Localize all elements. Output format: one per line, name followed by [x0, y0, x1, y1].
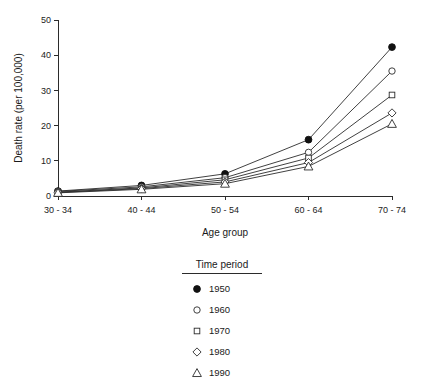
legend-item-1960[interactable]: 1960	[194, 304, 230, 315]
x-axis-tick-label: 70 - 74	[378, 205, 406, 215]
data-point-1960-70-74	[389, 68, 395, 74]
series-line-1950	[58, 47, 392, 191]
y-axis-tick-label: 10	[41, 156, 51, 166]
data-point-1990-70-74	[388, 119, 397, 127]
y-axis-tick-label: 0	[46, 191, 51, 201]
x-axis-tick-label: 40 - 44	[127, 205, 155, 215]
legend-label-1990: 1990	[209, 367, 230, 378]
legend-label-1980: 1980	[209, 346, 230, 357]
x-axis-tick-label: 60 - 64	[294, 205, 322, 215]
chart-legend: Time period19501960197019801990	[182, 259, 262, 378]
series-1950	[55, 44, 396, 195]
y-axis-tick-label: 30	[41, 86, 51, 96]
data-point-1970-70-74	[389, 92, 395, 98]
legend-title: Time period	[196, 259, 248, 270]
data-point-1950-70-74	[389, 44, 396, 51]
x-axis-title: Age group	[202, 227, 249, 238]
data-point-1950-60-64	[305, 136, 312, 143]
legend-label-1960: 1960	[209, 304, 230, 315]
x-axis-tick-label: 30 - 34	[44, 205, 72, 215]
legend-marker-open-square	[194, 328, 200, 334]
y-axis-tick-label: 50	[41, 15, 51, 25]
legend-marker-open-diamond	[193, 348, 201, 356]
legend-item-1990[interactable]: 1990	[193, 367, 231, 378]
legend-item-1980[interactable]: 1980	[193, 346, 230, 357]
legend-item-1970[interactable]: 1970	[194, 325, 230, 336]
legend-label-1970: 1970	[209, 325, 230, 336]
data-point-1980-70-74	[388, 109, 396, 117]
data-point-1960-60-64	[305, 149, 311, 155]
legend-marker-open-circle	[194, 307, 200, 313]
y-axis-tick-label: 20	[41, 121, 51, 131]
legend-label-1950: 1950	[209, 283, 230, 294]
chart-axis-labels: 0102030405030 - 3440 - 4450 - 5460 - 647…	[13, 15, 406, 238]
legend-item-1950[interactable]: 1950	[194, 283, 231, 294]
line-chart-svg: 0102030405030 - 3440 - 4450 - 5460 - 647…	[0, 0, 422, 379]
chart-figure: 0102030405030 - 3440 - 4450 - 5460 - 647…	[0, 0, 422, 379]
chart-series-layer	[54, 44, 397, 197]
y-axis-tick-label: 40	[41, 50, 51, 60]
x-axis-tick-label: 50 - 54	[211, 205, 239, 215]
y-axis-title: Death rate (per 100,000)	[13, 53, 24, 163]
legend-marker-filled-circle	[194, 286, 201, 293]
legend-marker-open-triangle	[193, 369, 202, 377]
